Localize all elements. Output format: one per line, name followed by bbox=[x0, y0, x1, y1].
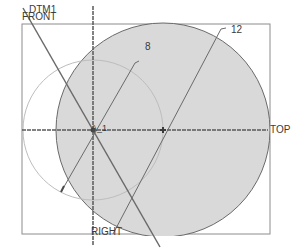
top-label[interactable]: TOP bbox=[270, 125, 290, 135]
dimension-12-label[interactable]: 12 bbox=[231, 25, 242, 35]
right-label[interactable]: RIGHT bbox=[91, 227, 122, 237]
sketch-canvas[interactable] bbox=[0, 0, 306, 251]
point-label[interactable]: A_1 bbox=[91, 124, 107, 133]
front-label[interactable]: FRONT bbox=[22, 12, 56, 22]
dimension-8-label[interactable]: 8 bbox=[145, 42, 151, 52]
dimension-8-tick bbox=[61, 186, 64, 192]
